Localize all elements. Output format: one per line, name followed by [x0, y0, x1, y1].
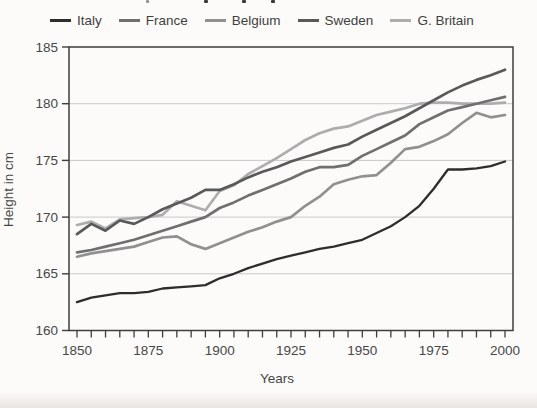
- y-tick-label-180: 180: [35, 96, 58, 111]
- plot-border: [69, 47, 513, 331]
- x-tick-label-1975: 1975: [419, 343, 449, 358]
- y-tick-label-165: 165: [35, 266, 58, 281]
- height-chart-figure: ItalyFranceBelgiumSwedenG. Britain 16016…: [0, 0, 537, 408]
- photo-edge-band: [0, 393, 537, 408]
- x-axis-title: Years: [0, 371, 537, 386]
- line-italy: [77, 162, 505, 303]
- y-tick-label-185: 185: [35, 40, 58, 55]
- line-belgium: [77, 113, 505, 257]
- line-g-britain: [77, 103, 505, 229]
- line-chart-canvas: 1601651701751801851850187519001925195019…: [0, 0, 537, 408]
- x-tick-label-1875: 1875: [133, 343, 163, 358]
- x-tick-label-2000: 2000: [490, 343, 520, 358]
- line-sweden: [77, 70, 505, 234]
- y-tick-label-160: 160: [35, 323, 58, 338]
- x-tick-label-1850: 1850: [62, 343, 92, 358]
- x-tick-label-1900: 1900: [205, 343, 235, 358]
- x-tick-label-1925: 1925: [276, 343, 306, 358]
- x-tick-label-1950: 1950: [347, 343, 377, 358]
- y-tick-label-175: 175: [35, 153, 58, 168]
- line-france: [77, 97, 505, 252]
- y-axis-title: Height in cm: [1, 130, 16, 250]
- y-tick-label-170: 170: [35, 210, 58, 225]
